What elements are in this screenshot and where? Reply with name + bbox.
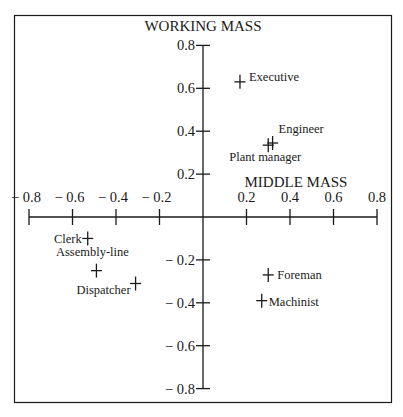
x-tick-label: − 0.8: [11, 189, 41, 205]
plus-marker-icon: [263, 268, 274, 282]
x-tick-label: − 0.2: [142, 189, 172, 205]
y-tick-label: 0.6: [177, 80, 195, 96]
point-label: Machinist: [269, 295, 320, 309]
x-axis-title: MIDDLE MASS: [245, 174, 348, 190]
point-label: Executive: [249, 70, 299, 84]
plus-marker-icon: [130, 276, 141, 290]
y-axis-title: WORKING MASS: [144, 18, 261, 34]
plus-marker-icon: [91, 264, 102, 278]
point-label: Plant manager: [229, 150, 302, 164]
point-label: Dispatcher: [76, 283, 131, 297]
point-label: Engineer: [279, 122, 325, 136]
data-point-assembly-line: Assembly-line: [56, 245, 129, 278]
point-label: Assembly-line: [56, 245, 129, 259]
data-point-foreman: Foreman: [263, 268, 323, 282]
x-axis-ticks: − 0.8− 0.6− 0.4− 0.20.20.40.60.8: [11, 189, 386, 225]
y-tick-label: − 0.4: [165, 295, 196, 311]
data-point-machinist: Machinist: [256, 294, 319, 309]
x-tick-label: 0.6: [324, 189, 342, 205]
plus-marker-icon: [234, 75, 245, 89]
plus-marker-icon: [82, 231, 93, 245]
y-tick-label: 0.8: [177, 37, 195, 53]
x-tick-label: − 0.6: [55, 189, 85, 205]
y-tick-label: 0.4: [177, 123, 196, 139]
y-tick-label: 0.2: [177, 166, 195, 182]
x-tick-label: 0.4: [281, 189, 300, 205]
data-point-dispatcher: Dispatcher: [76, 276, 141, 297]
correspondence-scatter-chart: WORKING MASS MIDDLE MASS − 0.8− 0.6− 0.4…: [0, 0, 403, 417]
data-point-plant-manager: Plant manager: [229, 138, 302, 164]
data-point-engineer: Engineer: [267, 122, 324, 150]
data-point-executive: Executive: [234, 70, 299, 89]
y-tick-label: − 0.6: [165, 338, 195, 354]
x-tick-label: 0.2: [237, 189, 255, 205]
y-tick-label: − 0.8: [165, 381, 195, 397]
point-label: Foreman: [277, 268, 322, 282]
y-tick-label: − 0.2: [165, 252, 195, 268]
x-tick-label: − 0.4: [98, 189, 129, 205]
x-tick-label: 0.8: [368, 189, 386, 205]
plus-marker-icon: [256, 294, 267, 308]
